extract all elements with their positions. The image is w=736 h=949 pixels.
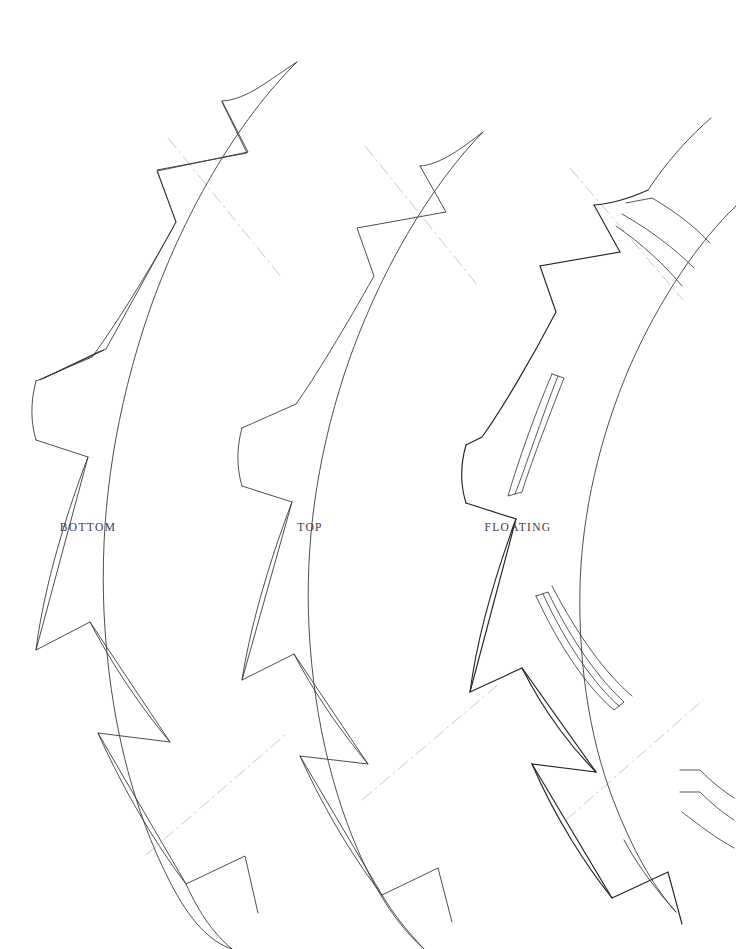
part-label-top: TOP [297, 521, 323, 533]
drawing-sheet: .edge { fill: none; stroke: #3a3a3a; str… [0, 0, 736, 949]
technical-drawing-canvas: .edge { fill: none; stroke: #3a3a3a; str… [0, 0, 736, 949]
part-label-floating: FLOATING [484, 521, 551, 533]
part-label-bottom: BOTTOM [60, 521, 116, 533]
